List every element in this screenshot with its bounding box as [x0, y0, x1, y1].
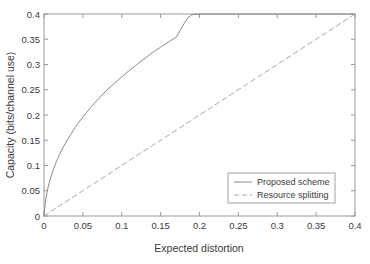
y-axis-title: Capacity (bits/channel use) [4, 52, 16, 179]
y-tick-label-8: 0.4 [27, 9, 40, 20]
y-tick-label-0: 0 [35, 211, 40, 222]
y-tick-label-7: 0.35 [22, 34, 41, 45]
x-tick-label-6: 0.3 [271, 220, 284, 231]
x-tick-label-1: 0.05 [74, 220, 93, 231]
x-tick-label-7: 0.35 [307, 220, 326, 231]
y-tick-label-3: 0.15 [22, 135, 41, 146]
x-tick-label-5: 0.25 [229, 220, 248, 231]
x-axis-title: Expected distortion [154, 242, 243, 254]
x-tick-label-0: 0 [41, 220, 46, 231]
x-axis-tick-labels: 00.050.10.150.20.250.30.350.4 [41, 220, 361, 231]
legend-label-proposed-scheme: Proposed scheme [257, 177, 330, 187]
y-tick-label-2: 0.1 [27, 160, 40, 171]
x-tick-label-4: 0.2 [193, 220, 206, 231]
chart-legend: Proposed scheme Resource splitting [228, 173, 335, 203]
capacity-vs-distortion-chart: 00.050.10.150.20.250.30.350.4 00.050.10.… [0, 0, 370, 264]
y-tick-label-1: 0.05 [22, 185, 41, 196]
x-tick-label-3: 0.15 [151, 220, 170, 231]
x-tick-label-2: 0.1 [115, 220, 128, 231]
chart-figure: 00.050.10.150.20.250.30.350.4 00.050.10.… [0, 0, 370, 264]
y-tick-label-5: 0.25 [22, 84, 41, 95]
legend-label-resource-splitting: Resource splitting [257, 190, 329, 200]
y-tick-label-4: 0.2 [27, 110, 40, 121]
x-tick-label-8: 0.4 [348, 220, 361, 231]
y-tick-label-6: 0.3 [27, 59, 40, 70]
